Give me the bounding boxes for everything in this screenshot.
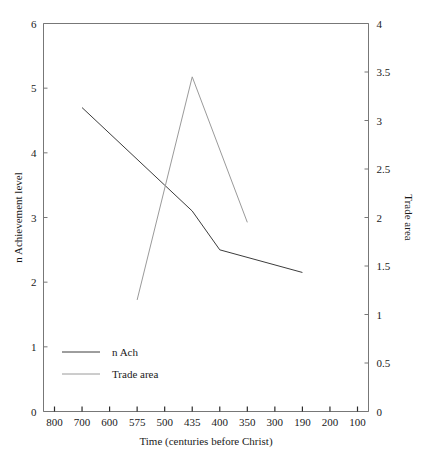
y-axis-right-tick-label: 3.5 <box>377 66 391 78</box>
y-axis-right-tick-label: 4 <box>377 18 383 30</box>
series-line-n-ach <box>82 108 302 273</box>
x-axis-tick-label: 300 <box>267 416 284 428</box>
y-axis-right-tick-label: 1 <box>377 309 383 321</box>
y-axis-left-tick-label: 3 <box>31 212 37 224</box>
x-axis-tick-label: 800 <box>46 416 63 428</box>
y-axis-right-tick-label: 1.5 <box>377 260 391 272</box>
y-axis-right-tick-label: 2.5 <box>377 163 391 175</box>
x-axis-tick-label: 700 <box>74 416 91 428</box>
x-axis-tick-label: 500 <box>156 416 173 428</box>
x-axis-tick-label: 100 <box>349 416 366 428</box>
x-axis-tick-label: 190 <box>294 416 311 428</box>
y-axis-right-tick-label: 3 <box>377 115 383 127</box>
x-axis-title: Time (centuries before Christ) <box>139 435 272 448</box>
y-axis-left-tick-label: 4 <box>31 147 37 159</box>
x-axis-tick-label: 350 <box>239 416 256 428</box>
x-axis-tick-label: 600 <box>101 416 118 428</box>
y-axis-left-tick-label: 0 <box>31 406 37 418</box>
chart-figure: 012345600.511.522.533.548007006005755004… <box>0 0 421 456</box>
y-axis-right-tick-label: 2 <box>377 212 383 224</box>
x-axis-tick-label: 400 <box>212 416 229 428</box>
y-axis-left-tick-label: 2 <box>31 276 37 288</box>
legend-label-n-ach: n Ach <box>112 346 138 358</box>
legend-label-trade-area: Trade area <box>112 368 158 380</box>
x-axis-tick-label: 435 <box>184 416 201 428</box>
y-axis-right-title: Trade area <box>403 194 415 240</box>
y-axis-right-tick-label: 0 <box>377 406 383 418</box>
y-axis-left-tick-label: 5 <box>31 82 37 94</box>
x-axis-tick-label: 575 <box>129 416 146 428</box>
y-axis-left-title: n Achievement level <box>12 172 24 262</box>
line-chart-canvas: 012345600.511.522.533.548007006005755004… <box>0 0 421 456</box>
x-axis-tick-label: 200 <box>322 416 339 428</box>
y-axis-left-tick-label: 1 <box>31 341 37 353</box>
y-axis-left-tick-label: 6 <box>31 18 37 30</box>
y-axis-right-tick-label: 0.5 <box>377 357 391 369</box>
series-line-trade-area <box>137 77 247 300</box>
